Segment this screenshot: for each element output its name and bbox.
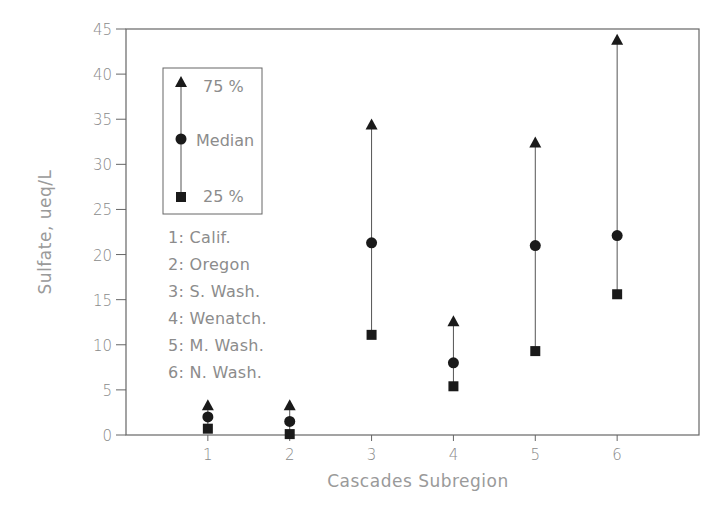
x-tick-label: 2 [285,446,295,464]
data-group-4 [447,315,459,391]
x-axis: 123456 [203,435,622,464]
y-axis: 051015202530354045 [93,21,126,445]
region-key-item: 6: N. Wash. [168,363,262,382]
y-tick-label: 25 [93,201,112,219]
data-group-1 [202,399,214,434]
circle-marker-icon [202,411,213,422]
y-tick-label: 45 [93,21,112,39]
x-axis-title: Cascades Subregion [327,471,509,491]
region-key: 1: Calif. 2: Oregon 3: S. Wash. 4: Wenat… [168,228,267,382]
region-key-item: 5: M. Wash. [168,336,264,355]
triangle-marker-icon [447,315,459,326]
triangle-marker-icon [202,399,214,410]
data-group-5 [529,137,541,357]
y-tick-label: 20 [93,247,112,265]
y-axis-title: Sulfate, ueq/L [35,170,55,295]
data-group-2 [284,399,296,439]
data-group-6 [611,34,623,300]
x-tick-label: 6 [612,446,622,464]
region-key-item: 1: Calif. [168,228,231,247]
data-series [202,34,623,439]
circle-marker-icon [176,134,187,145]
square-marker-icon [448,381,458,391]
x-tick-label: 4 [449,446,459,464]
square-marker-icon [285,429,295,439]
square-marker-icon [176,192,186,202]
circle-marker-icon [612,230,623,241]
x-tick-label: 3 [367,446,377,464]
legend-label-25: 25 % [203,187,244,206]
y-tick-label: 30 [93,156,112,174]
y-tick-label: 15 [93,292,112,310]
triangle-marker-icon [366,119,378,130]
legend-label-median: Median [196,131,254,150]
y-tick-label: 5 [102,382,112,400]
triangle-marker-icon [611,34,623,45]
circle-marker-icon [284,416,295,427]
triangle-marker-icon [284,399,296,410]
legend-box: 75 % Median 25 % [163,68,262,214]
legend-label-75: 75 % [203,77,244,96]
y-tick-label: 40 [93,66,112,84]
y-tick-label: 35 [93,111,112,129]
data-group-3 [366,119,378,340]
region-key-item: 4: Wenatch. [168,309,267,328]
circle-marker-icon [448,357,459,368]
y-tick-label: 10 [93,337,112,355]
square-marker-icon [203,424,213,434]
circle-marker-icon [366,237,377,248]
sulfate-range-chart: 051015202530354045 123456 75 % Median 25… [0,0,721,515]
circle-marker-icon [530,240,541,251]
region-key-item: 3: S. Wash. [168,282,260,301]
triangle-marker-icon [529,137,541,148]
x-tick-label: 1 [203,446,213,464]
y-tick-label: 0 [102,427,112,445]
square-marker-icon [367,330,377,340]
triangle-marker-icon [175,76,187,87]
x-tick-label: 5 [531,446,541,464]
square-marker-icon [612,289,622,299]
square-marker-icon [530,346,540,356]
region-key-item: 2: Oregon [168,255,250,274]
